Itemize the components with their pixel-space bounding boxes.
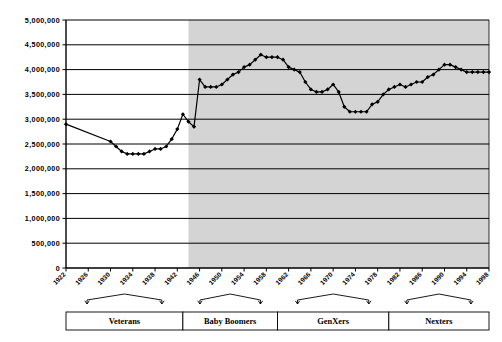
- generation-label: Baby Boomers: [204, 317, 257, 326]
- x-axis-tick-label: 1942: [163, 271, 179, 287]
- x-axis-tick-label: 1994: [452, 271, 468, 287]
- x-axis-tick-label: 1954: [229, 271, 245, 287]
- data-point-marker: [64, 122, 68, 126]
- generation-bracket: [298, 294, 369, 304]
- x-axis-tick-label: 1934: [118, 271, 134, 287]
- generation-bracket: [407, 294, 471, 304]
- y-axis-tick-label: 5,000,000: [25, 16, 60, 25]
- y-axis-tick-label: 4,500,000: [25, 40, 60, 49]
- births-by-year-line-chart: 0500,0001,000,0001,500,0002,000,0002,500…: [0, 0, 502, 342]
- y-axis-tick-label: 3,000,000: [25, 115, 60, 124]
- generation-bracket: [87, 294, 162, 304]
- x-axis-tick-label: 1978: [363, 271, 379, 287]
- data-point-marker: [125, 152, 129, 156]
- x-axis-tick-label: 1938: [140, 271, 156, 287]
- y-axis-tick-label: 3,500,000: [25, 90, 60, 99]
- x-axis-tick-label: 1930: [96, 271, 112, 287]
- y-axis-tick-label: 2,500,000: [25, 140, 60, 149]
- x-axis-tick-label: 1990: [430, 271, 446, 287]
- x-axis-tick-label: 1962: [274, 271, 290, 287]
- x-axis-tick-label: 1922: [51, 271, 67, 287]
- generation-label: GenXers: [317, 317, 349, 326]
- x-axis-tick-label: 1958: [252, 271, 268, 287]
- x-axis-tick-label: 1970: [319, 271, 335, 287]
- x-axis-tick-label: 1986: [408, 271, 424, 287]
- y-axis-tick-label: 1,500,000: [25, 189, 60, 198]
- y-axis-tick-label: 0: [56, 264, 60, 273]
- y-axis-tick-label: 1,000,000: [25, 214, 60, 223]
- data-point-marker: [131, 152, 135, 156]
- data-point-marker: [136, 152, 140, 156]
- data-point-marker: [142, 152, 146, 156]
- generation-label: Nexters: [425, 317, 453, 326]
- data-point-marker: [159, 147, 163, 151]
- y-axis-tick-label: 500,000: [32, 239, 60, 248]
- x-axis-tick-label: 1950: [207, 271, 223, 287]
- x-axis-tick-label: 1982: [385, 271, 401, 287]
- x-axis-tick-label: 1974: [341, 271, 357, 287]
- generation-label: Veterans: [109, 317, 141, 326]
- generation-bracket: [200, 294, 261, 304]
- x-axis-tick-label: 1946: [185, 271, 201, 287]
- y-axis-tick-label: 4,000,000: [25, 65, 60, 74]
- x-axis-tick-label: 1926: [74, 271, 90, 287]
- chart-container: 0500,0001,000,0001,500,0002,000,0002,500…: [0, 0, 502, 342]
- y-axis-tick-label: 2,000,000: [25, 164, 60, 173]
- x-axis-tick-label: 1966: [296, 271, 312, 287]
- data-point-marker: [153, 147, 157, 151]
- data-point-marker: [147, 149, 151, 153]
- x-axis-tick-label: 1998: [474, 271, 490, 287]
